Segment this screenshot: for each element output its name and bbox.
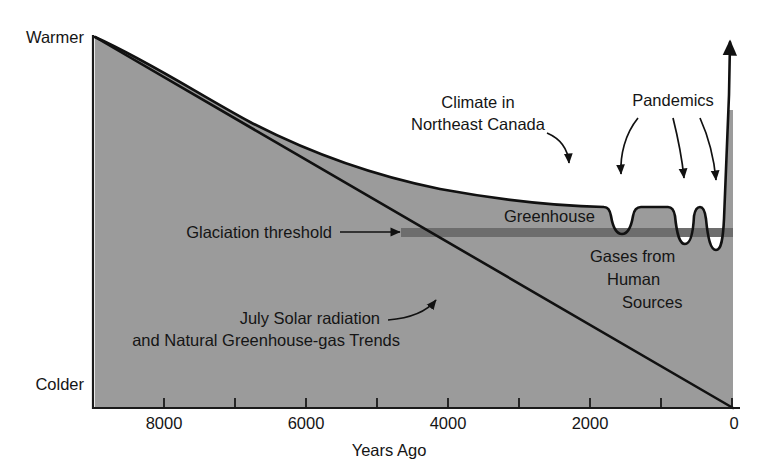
- x-tick-label-4000: 4000: [430, 414, 467, 432]
- greenhouse-label: Greenhouse: [504, 207, 595, 225]
- x-tick-label-8000: 8000: [146, 414, 183, 432]
- solar-label-line2: and Natural Greenhouse-gas Trends: [132, 331, 400, 349]
- x-tick-label-0: 0: [729, 414, 738, 432]
- x-tick-label-6000: 6000: [288, 414, 325, 432]
- x-tick-label-2000: 2000: [572, 414, 609, 432]
- gases-label-line1: Gases from: [590, 247, 675, 265]
- x-axis-tick-labels: 8000 6000 4000 2000 0: [146, 414, 739, 432]
- glaciation-threshold-band: [401, 228, 733, 237]
- gases-label-line2: Human: [607, 270, 660, 288]
- climate-label-line2: Northeast Canada: [411, 115, 546, 133]
- glaciation-threshold-label: Glaciation threshold: [186, 223, 332, 241]
- annotation-pandemics: Pandemics: [621, 91, 716, 180]
- x-axis-title: Years Ago: [352, 441, 427, 459]
- solar-label-line1: July Solar radiation: [240, 309, 380, 327]
- chart-canvas: 8000 6000 4000 2000 0 Years Ago Warmer C…: [0, 0, 760, 474]
- pandemics-arrow-1: [621, 118, 638, 174]
- y-axis-label-colder: Colder: [35, 375, 84, 393]
- climate-chart-figure: 8000 6000 4000 2000 0 Years Ago Warmer C…: [0, 0, 760, 474]
- climate-label-arrow: [547, 133, 569, 163]
- annotation-climate-northeast-canada: Climate in Northeast Canada: [411, 93, 569, 163]
- y-axis-label-warmer: Warmer: [26, 28, 85, 46]
- gases-label-line3: Sources: [622, 293, 683, 311]
- pandemics-arrow-3: [700, 118, 716, 180]
- pandemics-arrow-2: [673, 118, 684, 178]
- climate-label-line1: Climate in: [441, 93, 514, 111]
- pandemics-label: Pandemics: [632, 91, 714, 109]
